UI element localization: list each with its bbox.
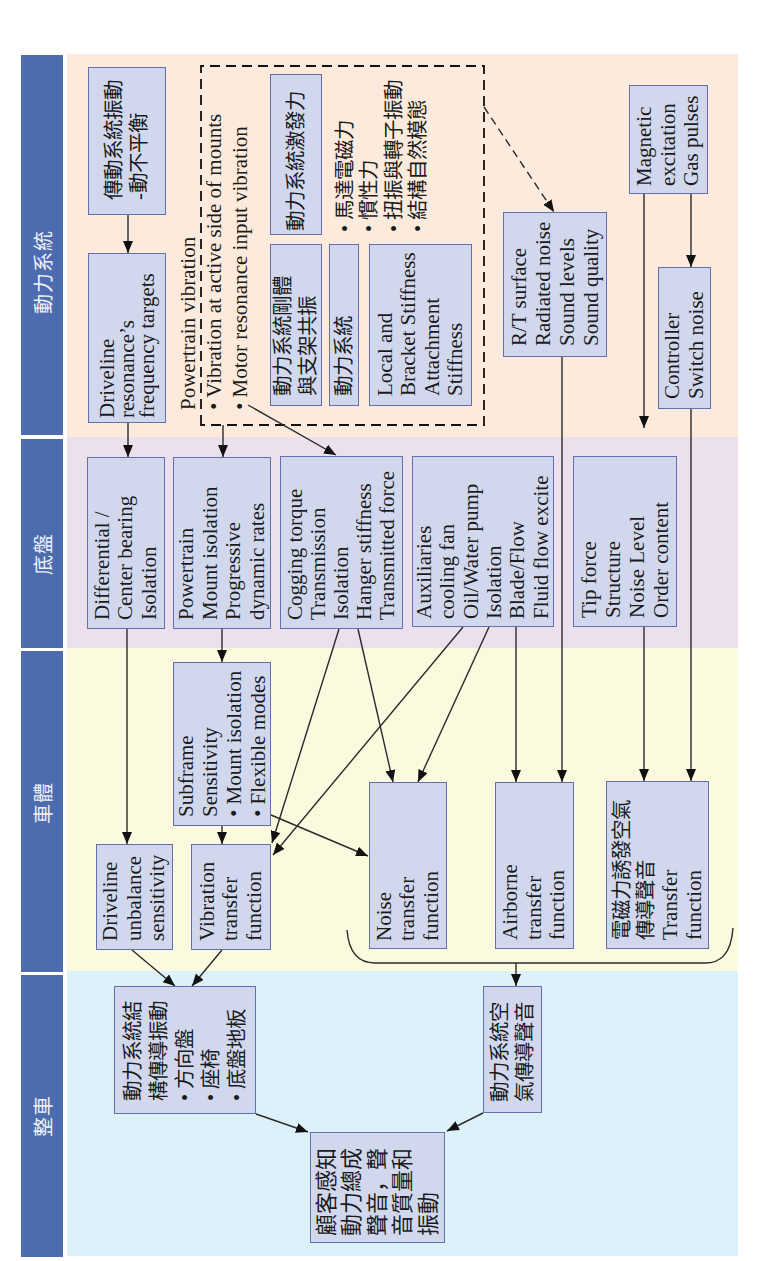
node-line: frequency targets: [137, 273, 157, 418]
node-line: 與支架共振: [296, 296, 321, 396]
node-line: 動力系統結: [120, 1001, 146, 1101]
node-customer-perception: 顧客感知 動力總成 聲音，聲 音質量和 振動: [310, 1132, 445, 1243]
node-line: dynamic rates: [246, 503, 270, 620]
node-line: Cogging torque: [284, 489, 307, 620]
node-excitation-force: 動力系統激發力: [270, 74, 322, 235]
node-line: 動力總成: [339, 1148, 365, 1236]
node-line: Switch noise: [685, 291, 709, 399]
node-line: Subframe: [174, 735, 198, 817]
node-line: Center bearing: [114, 496, 138, 620]
annotation-title: Powertrain vibration: [175, 114, 201, 410]
node-vibration-transfer-function: Vibration transfer function: [191, 844, 271, 950]
node-bracket-stiffness: Local and Bracket Stiffness Attachment S…: [369, 244, 472, 406]
node-line: 振動: [416, 1192, 442, 1236]
node-line: function: [243, 871, 267, 941]
arrow-motor-resonance-to-cogging: [248, 405, 336, 455]
node-cogging-torque: Cogging torque Transmission Isolation Ha…: [280, 456, 403, 629]
node-line: function: [682, 870, 706, 940]
node-line: 動力系統: [332, 316, 357, 396]
node-line: Magnetic: [633, 107, 657, 186]
node-line: Sound levels: [555, 238, 579, 346]
node-line: Transfer: [658, 870, 682, 940]
node-line: transfer: [523, 876, 547, 940]
node-line: Sensitivity: [198, 727, 222, 817]
node-line: 電磁力誘發空氣: [610, 800, 634, 940]
node-powertrain-system: 動力系統: [329, 244, 359, 406]
node-line: 顧客感知: [314, 1148, 340, 1236]
node-driveline-vibration: 傳動系統振動 -動不平衡: [88, 67, 166, 215]
node-airborne-transfer-function: Airborne transfer function: [495, 782, 574, 949]
node-line: 聲音，聲: [365, 1148, 391, 1236]
node-line: Local and: [374, 313, 398, 396]
node-line: Tip force: [577, 541, 601, 618]
node-line: Noise: [373, 892, 397, 941]
node-line: Driveline: [97, 339, 117, 418]
list-item: • 扭振與轉子振動: [382, 80, 406, 232]
node-auxiliaries: Auxiliaries cooling fan Oil/Water pump I…: [412, 456, 554, 627]
node-line: 傳導聲音: [634, 860, 658, 940]
node-differential: Differential / Center bearing Isolation: [87, 457, 165, 629]
excitation-sources-list: • 馬達電磁力 • 慣性力 • 扭振與轉子振動 • 結構自然模態: [333, 80, 430, 232]
node-line: • 方向盤: [172, 1029, 198, 1101]
list-item: • 慣性力: [357, 80, 381, 232]
arrow-vibration-tf-to-structure-borne: [192, 950, 222, 986]
node-tip-force: Tip force Structure Noise Level Order co…: [573, 456, 677, 627]
node-line: Gas pulses: [680, 96, 704, 186]
node-line: Isolation: [483, 546, 506, 620]
node-line: Structure: [601, 541, 625, 618]
node-line: Bracket Stiffness: [397, 252, 421, 396]
node-line: Isolation: [138, 547, 162, 621]
node-line: 動力系統剛體: [271, 276, 296, 396]
node-line: 音質量和: [390, 1148, 416, 1236]
node-magnetic-excitation: Magnetic excitation Gas pulses: [629, 85, 708, 194]
node-line: 傳動系統振動: [102, 80, 127, 200]
annotation-bullet: • Vibration at active side of mounts: [201, 114, 227, 410]
node-line: Noise Level: [625, 516, 649, 618]
node-line: Differential /: [91, 511, 115, 620]
node-line: 構傳導振動: [146, 1001, 172, 1101]
node-line: Powertrain: [175, 528, 199, 620]
node-line: Controller: [661, 313, 685, 399]
arrow-cogging-to-noise-tf: [358, 629, 393, 782]
node-line: excitation: [657, 103, 681, 186]
node-line: sensitivity: [146, 855, 170, 941]
node-subframe: Subframe Sensitivity • Mount isolation •…: [173, 662, 271, 826]
node-line: Hanger stiffness: [353, 483, 376, 620]
arrow-subframe-to-noise-tf: [271, 815, 368, 856]
arrow-airborne-noise-to-customer: [447, 1113, 483, 1131]
node-line: transfer: [219, 877, 243, 941]
node-line: Transmission: [307, 508, 330, 620]
node-airborne-noise: 動力系統空 氣傳導聲音: [483, 986, 542, 1113]
node-line: function: [420, 871, 444, 941]
node-line: • 底盤地板: [224, 1009, 250, 1101]
node-line: Radiated noise: [531, 222, 555, 346]
node-line: • Mount isolation: [222, 671, 246, 817]
node-line: Stiffness: [444, 323, 468, 396]
node-noise-transfer-function: Noise transfer function: [369, 782, 447, 949]
node-line: Attachment: [421, 298, 445, 396]
node-line: Order content: [649, 502, 673, 618]
arrow-structure-borne-to-customer: [256, 1114, 308, 1132]
node-line: Driveline: [99, 862, 123, 941]
annotation-bullet: • Motor resonance input vibration: [227, 114, 253, 410]
node-line: transfer: [396, 877, 420, 941]
node-line: unbalance: [123, 856, 147, 941]
node-controller: Controller Switch noise: [658, 267, 711, 409]
node-line: resonance’s: [117, 320, 137, 418]
node-driveline-sensitivity: Driveline unbalance sensitivity: [96, 844, 173, 950]
node-line: Airborne: [499, 864, 523, 940]
node-line: 動力系統空: [488, 1002, 513, 1102]
node-line: Oil/Water pump: [460, 484, 483, 619]
node-line: -動不平衡: [127, 113, 152, 200]
node-line: cooling fan: [436, 524, 459, 619]
node-line: Isolation: [330, 547, 353, 621]
node-rigid-body-resonance: 動力系統剛體 與支架共振: [270, 244, 322, 406]
node-line: function: [546, 870, 570, 940]
node-line: Auxiliaries: [413, 526, 436, 619]
node-line: Progressive: [222, 522, 246, 620]
node-driveline-resonance: Driveline resonance’s frequency targets: [88, 253, 166, 423]
list-item: • 馬達電磁力: [333, 80, 357, 232]
node-line: • 座椅: [198, 1049, 224, 1101]
node-line: • Flexible modes: [246, 675, 270, 817]
node-line: 動力系統激發力: [284, 91, 309, 231]
